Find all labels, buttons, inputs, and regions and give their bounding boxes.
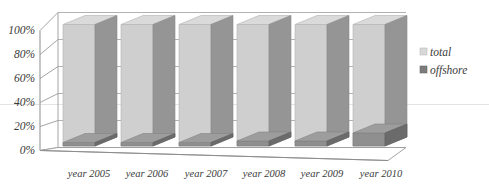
depth-edge-20 xyxy=(40,121,58,127)
y-tick-labels: 100% 80% 60% 40% 20% 0% xyxy=(8,24,35,156)
y-tick-label-80: 80% xyxy=(14,48,35,60)
y-tick-label-60: 60% xyxy=(14,72,35,84)
legend-swatch-offshore-icon xyxy=(420,66,427,73)
bar-chart-3d: 100% 80% 60% 40% 20% 0% xyxy=(0,0,489,187)
bar-side-total-2005 xyxy=(95,16,117,147)
bar-front-offshore-2010 xyxy=(353,133,385,146)
bar-front-total-2007 xyxy=(179,25,211,147)
bar-front-offshore-2006 xyxy=(121,143,153,147)
bar-front-offshore-2008 xyxy=(237,141,269,146)
bar-side-total-2006 xyxy=(153,16,175,147)
x-tick-label-2006: year 2006 xyxy=(125,168,169,179)
bar-side-total-2007 xyxy=(211,16,233,147)
depth-edge-80 xyxy=(40,40,58,55)
y-tick-label-40: 40% xyxy=(14,96,35,108)
y-tick-label-20: 20% xyxy=(14,120,35,132)
bar-group-year-2005[interactable] xyxy=(63,16,117,147)
bar-front-offshore-2007 xyxy=(179,143,211,147)
bar-front-offshore-2005 xyxy=(63,143,95,147)
legend-label-offshore: offshore xyxy=(430,64,467,77)
bar-front-total-2005 xyxy=(63,25,95,147)
x-tick-label-2005: year 2005 xyxy=(67,168,110,179)
bar-front-total-2008 xyxy=(237,25,269,147)
bar-front-offshore-2009 xyxy=(295,141,327,146)
bar-side-total-2009 xyxy=(327,16,349,147)
legend-item-total[interactable]: total xyxy=(420,46,451,58)
depth-edge-60 xyxy=(40,67,58,79)
bar-front-total-2006 xyxy=(121,25,153,147)
chart-container: 100% 80% 60% 40% 20% 0% xyxy=(0,0,489,187)
legend-item-offshore[interactable]: offshore xyxy=(420,64,467,77)
depth-edge-100 xyxy=(40,13,58,31)
y-tick-label-100: 100% xyxy=(8,24,35,36)
bar-side-total-2008 xyxy=(269,16,291,147)
y-tick-label-0: 0% xyxy=(20,144,35,156)
legend-label-total: total xyxy=(430,46,451,58)
bar-group-year-2009[interactable] xyxy=(295,16,349,147)
legend-swatch-total-icon xyxy=(420,48,427,55)
x-tick-label-2008: year 2008 xyxy=(242,168,286,179)
floor-group xyxy=(40,148,406,161)
depth-edge-40 xyxy=(40,94,58,103)
bar-group-year-2008[interactable] xyxy=(237,16,291,147)
x-tick-label-2009: year 2009 xyxy=(300,168,344,179)
bar-group-year-2010[interactable] xyxy=(353,16,407,147)
floor-plane xyxy=(40,148,406,161)
x-tick-label-2010: year 2010 xyxy=(359,168,403,179)
bar-front-total-2009 xyxy=(295,25,327,147)
x-tick-labels: year 2005 year 2006 year 2007 year 2008 … xyxy=(67,168,403,179)
bar-group-year-2006[interactable] xyxy=(121,16,175,147)
legend: total offshore xyxy=(420,46,467,77)
x-tick-label-2007: year 2007 xyxy=(184,168,228,179)
bar-group-year-2007[interactable] xyxy=(179,16,233,147)
